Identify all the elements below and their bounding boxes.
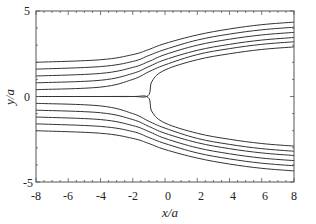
streamline-10 [36,131,294,171]
x-tick-label: 0 [165,189,171,203]
x-tick-label: -4 [96,189,106,203]
streamlines [36,22,294,171]
streamline-4 [36,38,294,83]
x-tick-label: 8 [291,189,297,203]
x-tick-label: 4 [230,189,236,203]
x-tick-label: 6 [262,189,268,203]
x-tick-label: 2 [198,189,204,203]
y-tick-label-0: 0 [24,90,30,104]
streamline-chart: 5 0 -5 -8 -6 -4 -2 0 2 4 6 8 x/a y/a [0,0,316,224]
x-tick-label: -6 [63,189,73,203]
streamline-1 [36,22,294,62]
x-axis-label: x/a [161,205,178,220]
streamline-8 [36,117,294,161]
streamline-2 [36,27,294,69]
x-tick-labels: -8 -6 -4 -2 0 2 4 6 8 [31,189,297,203]
x-tick-label: -2 [128,189,138,203]
y-tick-label-5: 5 [24,4,30,18]
y-tick-label-neg5: -5 [23,176,33,190]
streamline-9 [36,124,294,166]
x-tick-label: -8 [31,189,41,203]
streamline-7 [36,110,294,155]
y-axis-label: y/a [2,89,17,107]
